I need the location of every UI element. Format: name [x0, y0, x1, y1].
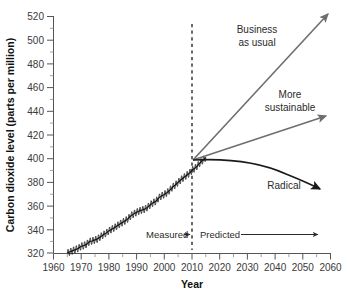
- y-tick-label: 460: [27, 82, 44, 93]
- chart-canvas: 520 500 480 460 440 420 400 380 360 340 …: [0, 0, 348, 296]
- y-tick-label: 500: [27, 35, 44, 46]
- x-tick-label: 1980: [98, 262, 121, 273]
- radical-label: Radical: [267, 180, 300, 191]
- y-tick-label: 480: [27, 59, 44, 70]
- x-tick-label: 1990: [125, 262, 148, 273]
- y-tick-label: 320: [27, 248, 44, 259]
- y-tick-label: 380: [27, 177, 44, 188]
- x-tick-label: 2050: [292, 262, 315, 273]
- x-tick-label: 2060: [319, 262, 342, 273]
- x-tick-label: 2020: [209, 262, 232, 273]
- measured-phase-label: Measured: [146, 229, 188, 240]
- business-as-usual-label-line1: Business: [237, 24, 278, 35]
- y-axis-title: Carbon dioxide level (parts per million): [4, 38, 16, 232]
- x-tick-label: 1960: [42, 262, 65, 273]
- y-tick-label: 360: [27, 201, 44, 212]
- x-tick-label: 2010: [181, 262, 204, 273]
- x-tick-label: 2030: [236, 262, 259, 273]
- x-axis-title: Year: [181, 278, 203, 290]
- y-tick-label: 440: [27, 106, 44, 117]
- co2-projection-chart: 520 500 480 460 440 420 400 380 360 340 …: [0, 0, 348, 296]
- y-tick-label: 340: [27, 225, 44, 236]
- chart-background: [0, 0, 348, 296]
- x-tick-label: 2040: [264, 262, 287, 273]
- y-tick-label: 520: [27, 11, 44, 22]
- x-tick-label: 1970: [70, 262, 93, 273]
- y-tick-label: 400: [27, 153, 44, 164]
- predicted-phase-label: Predicted: [200, 229, 240, 240]
- more-sustainable-label-line1: More: [279, 89, 302, 100]
- y-tick-label: 420: [27, 130, 44, 141]
- x-tick-label: 2000: [153, 262, 176, 273]
- more-sustainable-label-line2: sustainable: [265, 102, 316, 113]
- business-as-usual-label-line2: as usual: [238, 37, 275, 48]
